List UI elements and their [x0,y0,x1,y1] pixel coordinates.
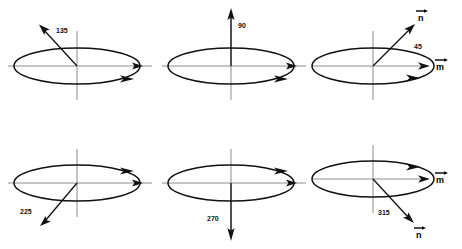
vector-m-label-group: m [435,171,448,185]
angle-label-135: 135 [56,27,68,34]
angle-label-270: 270 [207,215,219,222]
vector-m-overbar-arrowhead-icon [444,58,448,62]
circulation-arrowhead [406,74,420,81]
angle-label-90: 90 [238,22,246,29]
vector-n-overbar-arrowhead-icon [424,9,428,13]
panel-135: 135 [0,0,154,124]
vector-n-label: n [418,13,424,23]
vector-orientation-figure: 135 90 45 [0,0,462,249]
angle-label-315: 315 [378,209,390,216]
angle-label-45: 45 [414,43,422,50]
panel-270: 270 [154,125,308,249]
normal-vector-line [45,183,77,221]
vector-n-label-group: n [414,226,426,240]
angle-label-225: 225 [20,208,32,215]
vector-n-overbar-arrowhead-icon [422,226,426,230]
panel-45: 45 n m [308,0,462,124]
normal-vector-arrowhead [40,216,51,226]
vector-n-label-group: n [416,9,428,23]
panel-90: 90 [154,0,308,124]
panel-315: 315 m n [308,125,462,249]
vector-m-label: m [436,62,444,72]
vector-n-label: n [416,230,422,240]
vector-m-overbar-arrowhead-icon [444,171,448,175]
circulation-arrowhead [406,163,420,170]
vector-m-label: m [436,175,444,185]
vector-m-label-group: m [435,58,448,72]
panel-225: 225 [0,125,154,249]
